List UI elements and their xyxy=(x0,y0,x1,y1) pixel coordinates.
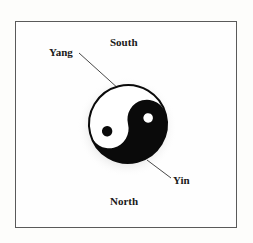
south-label: South xyxy=(110,37,138,48)
north-label: North xyxy=(110,196,138,207)
yang-leader-line xyxy=(79,53,120,90)
yang-label: Yang xyxy=(49,47,73,58)
diagram-canvas: South Yang Yin North xyxy=(0,0,253,243)
yin-label: Yin xyxy=(173,175,190,186)
